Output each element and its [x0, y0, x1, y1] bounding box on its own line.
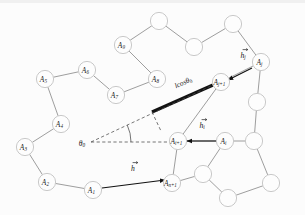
bond-n10-n11	[166, 26, 187, 42]
lcos-theta-label: lcosθ0	[173, 74, 194, 90]
node-n20[interactable]	[194, 165, 211, 182]
theta-zero-label-text: θ0	[79, 139, 86, 149]
node-circle	[248, 93, 265, 110]
node-n21[interactable]	[219, 189, 236, 206]
node-Aj[interactable]: Aj	[252, 53, 269, 70]
annotation-layer: θ0lcosθ0hjhih	[79, 49, 248, 173]
bond-n11-n12	[201, 28, 225, 42]
vector-label-v-h-text: h	[131, 164, 135, 173]
projection-drop	[152, 112, 161, 131]
node-Aj+1[interactable]: Aj+1	[212, 73, 229, 90]
node-An+1[interactable]: An+1	[163, 174, 181, 191]
bond-n4-n5	[48, 87, 58, 116]
node-circle	[219, 189, 236, 206]
bond-n22-n16	[257, 149, 268, 175]
bond-n9-n10	[130, 26, 152, 40]
bond-n19-n20	[180, 176, 194, 180]
vector-label-v-hj: hj	[240, 49, 247, 61]
chain-diagram: A1A2A3A4A5A6A7A8A9AjAj+1AiAi+1An+1 θ0lco…	[0, 0, 305, 215]
node-A9[interactable]: A9	[114, 36, 131, 53]
theta-zero-label: θ0	[79, 139, 86, 149]
node-n11[interactable]	[185, 38, 202, 55]
node-A4[interactable]: A4	[52, 115, 69, 132]
bond-n15-n16	[255, 111, 257, 133]
bond-n2-n3	[30, 154, 43, 174]
lcos-theta-text: lcosθ0	[173, 74, 194, 90]
vector-label-v-hi-text: hi	[199, 121, 205, 131]
node-A6[interactable]: A6	[78, 61, 95, 78]
node-circle	[262, 174, 279, 191]
node-A5[interactable]: A5	[36, 70, 53, 87]
bond-n17-n20	[208, 148, 220, 167]
node-A3[interactable]: A3	[16, 138, 33, 155]
node-circle	[194, 165, 211, 182]
vector-v-hj	[228, 68, 252, 80]
node-A8[interactable]: A8	[148, 70, 165, 87]
vector-label-v-hj-text: hj	[240, 51, 246, 61]
bond-layer	[30, 26, 268, 195]
theta-arc	[127, 125, 131, 142]
node-n22[interactable]	[262, 174, 279, 191]
node-n15[interactable]	[248, 93, 265, 110]
node-n16[interactable]	[245, 132, 262, 149]
bond-n20-n21	[209, 180, 222, 192]
node-n10[interactable]	[150, 12, 167, 29]
bond-n5-n6	[53, 72, 78, 77]
node-n12[interactable]	[224, 15, 241, 32]
figure-root: A1A2A3A4A5A6A7A8A9AjAj+1AiAi+1An+1 θ0lco…	[0, 0, 305, 215]
node-Ai[interactable]: Ai	[216, 132, 233, 149]
node-A2[interactable]: A2	[38, 173, 55, 190]
bond-n13-n15	[258, 71, 260, 94]
node-Ai+1[interactable]: Ai+1	[169, 132, 186, 149]
vector-label-v-h: h	[131, 162, 138, 173]
bond-n21-n22	[236, 186, 263, 195]
vector-v-h	[102, 180, 165, 188]
bond-n8-n9	[129, 51, 151, 73]
node-A1[interactable]: A1	[84, 181, 101, 198]
node-A7[interactable]: A7	[107, 86, 124, 103]
bond-n18-n19	[173, 150, 177, 175]
bond-n3-n4	[32, 129, 54, 143]
bond-n1-n2	[55, 183, 84, 188]
node-circle	[245, 132, 262, 149]
node-circle	[224, 15, 241, 32]
bond-n7-n8	[124, 82, 149, 92]
bond-n6-n7	[94, 76, 110, 90]
vector-label-v-hi: hi	[199, 119, 206, 131]
node-circle	[185, 38, 202, 55]
bond-n13-n14	[229, 66, 254, 78]
node-circle	[150, 12, 167, 29]
